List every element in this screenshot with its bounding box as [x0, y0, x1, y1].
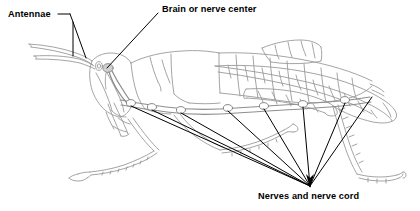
label-nerves-and-nerve-cord: Nerves and nerve cord	[258, 192, 359, 201]
mouthparts	[106, 103, 130, 136]
nerves-leader-fan	[131, 97, 372, 186]
wing-base	[262, 40, 322, 64]
label-antennae: Antennae	[8, 10, 51, 19]
label-brain: Brain or nerve center	[162, 5, 257, 14]
head-shape	[90, 53, 131, 117]
compound-eye	[96, 62, 103, 71]
hind-leg-tibia	[333, 105, 406, 183]
grasshopper-line-drawing	[0, 0, 420, 211]
body-outline-group	[29, 40, 406, 183]
leader-lines-group	[58, 13, 372, 188]
foreleg-shape	[69, 118, 159, 181]
diagram-canvas: Antennae Brain or nerve center Nerves an…	[0, 0, 420, 211]
